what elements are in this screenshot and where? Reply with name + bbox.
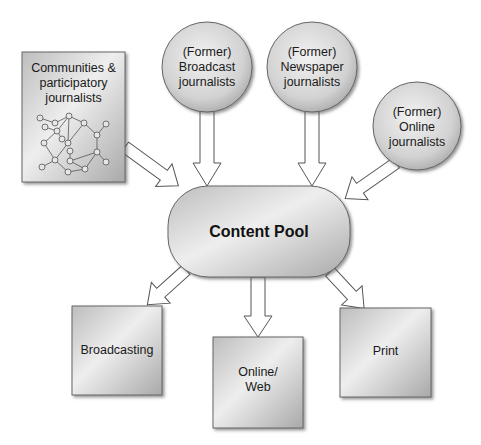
content-pool-diagram <box>0 0 481 445</box>
node-communities <box>22 52 125 182</box>
arrow-broadcast-to-pool <box>193 111 221 186</box>
node-print <box>340 308 431 397</box>
node-broadcasting <box>72 306 162 395</box>
node-content-pool <box>168 186 350 277</box>
node-newspaper-journalists <box>267 22 357 112</box>
arrow-pool-to-online-web <box>244 277 272 337</box>
arrow-communities-to-pool <box>117 136 187 197</box>
node-online-web <box>213 337 303 428</box>
arrow-newspaper-to-pool <box>298 111 326 186</box>
node-online-journalists <box>373 82 461 170</box>
node-broadcast-journalists <box>162 22 252 112</box>
